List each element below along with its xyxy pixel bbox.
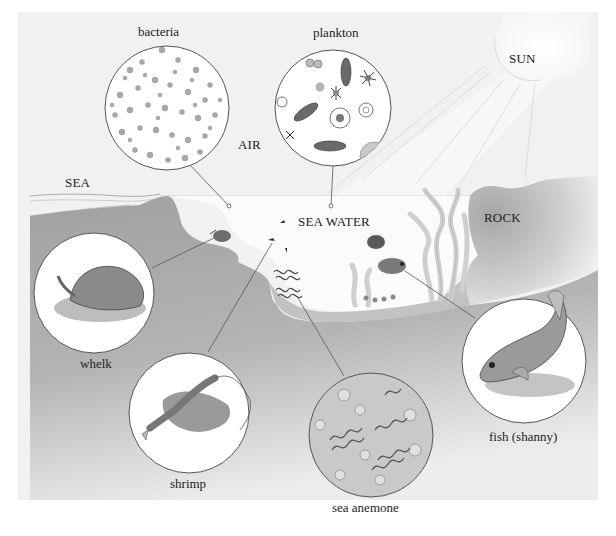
label-fish: fish (shanny) [489,429,557,445]
label-sea-anemone: sea anemone [332,500,399,516]
whelk-inset [34,233,154,353]
label-sea: SEA [65,175,90,191]
sun [495,12,590,84]
label-plankton: plankton [313,25,359,41]
sea-anemone-inset [309,373,433,497]
label-rock: ROCK [484,210,521,226]
shrimp-inset [129,353,251,473]
label-air: AIR [238,137,261,153]
bacteria-inset [105,46,229,170]
label-whelk: whelk [80,356,112,372]
label-shrimp: shrimp [170,476,206,492]
rock-pool-diagram: bacteria plankton SUN AIR SEA SEA WATER … [0,0,616,536]
label-sun: SUN [509,51,536,67]
label-bacteria: bacteria [138,24,179,40]
label-sea-water: SEA WATER [298,214,370,230]
